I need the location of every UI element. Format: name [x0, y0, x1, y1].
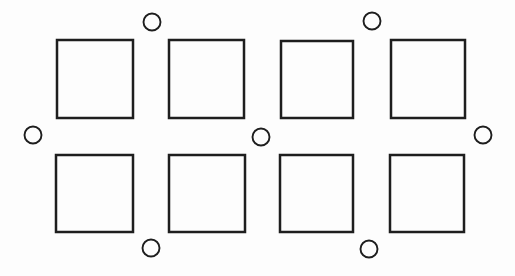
diagram-svg [0, 0, 515, 276]
diagram-background [0, 0, 515, 276]
diagram-page [0, 0, 515, 276]
